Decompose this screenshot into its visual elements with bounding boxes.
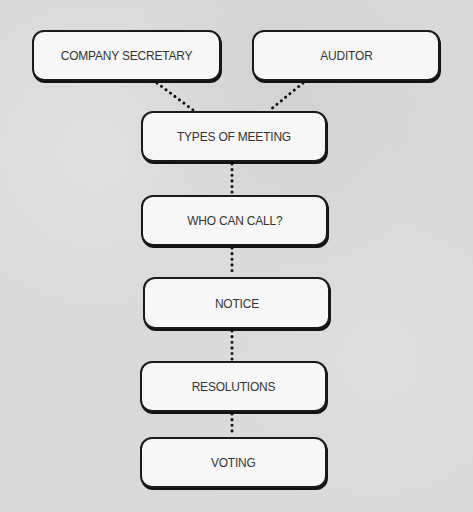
node-label: COMPANY SECRETARY: [61, 48, 193, 63]
node-types-of-meeting: TYPES OF MEETING: [141, 111, 327, 162]
node-label: AUDITOR: [320, 48, 372, 63]
node-voting: VOTING: [140, 437, 327, 488]
node-label: VOTING: [211, 455, 256, 470]
node-resolutions: RESOLUTIONS: [140, 361, 327, 412]
node-auditor: AUDITOR: [252, 30, 440, 81]
node-label: RESOLUTIONS: [192, 379, 276, 394]
node-label: TYPES OF MEETING: [177, 129, 291, 144]
node-notice: NOTICE: [143, 277, 330, 329]
connector-auditor-to-types: [270, 83, 303, 110]
node-label: WHO CAN CALL?: [187, 213, 282, 228]
node-company-secretary: COMPANY SECRETARY: [32, 30, 221, 81]
node-who-can-call: WHO CAN CALL?: [141, 195, 328, 246]
node-label: NOTICE: [214, 296, 258, 311]
connector-secretary-to-types: [157, 83, 193, 110]
